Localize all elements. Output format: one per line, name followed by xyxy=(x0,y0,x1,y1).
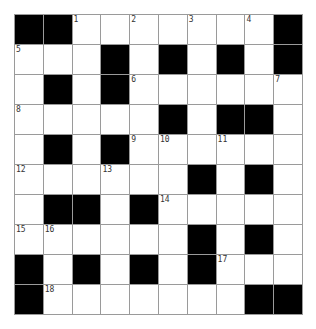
block-cell xyxy=(159,45,187,74)
answer-cell[interactable] xyxy=(159,75,187,104)
answer-cell[interactable] xyxy=(159,165,187,194)
block-cell xyxy=(44,195,72,224)
answer-cell[interactable] xyxy=(245,195,273,224)
answer-cell[interactable] xyxy=(274,195,302,224)
answer-cell[interactable] xyxy=(73,285,101,314)
answer-cell[interactable] xyxy=(73,45,101,74)
answer-cell[interactable] xyxy=(274,165,302,194)
answer-cell[interactable] xyxy=(217,225,245,254)
block-cell xyxy=(188,225,216,254)
clue-number: 2 xyxy=(131,16,136,24)
answer-cell[interactable] xyxy=(217,165,245,194)
answer-cell[interactable] xyxy=(130,165,158,194)
answer-cell[interactable]: 10 xyxy=(159,135,187,164)
answer-cell[interactable] xyxy=(274,225,302,254)
clue-number: 13 xyxy=(102,166,112,174)
answer-cell[interactable]: 12 xyxy=(15,165,43,194)
answer-cell[interactable] xyxy=(15,135,43,164)
answer-cell[interactable]: 18 xyxy=(44,285,72,314)
block-cell xyxy=(15,285,43,314)
block-cell xyxy=(130,255,158,284)
clue-number: 18 xyxy=(45,286,55,294)
answer-cell[interactable]: 8 xyxy=(15,105,43,134)
answer-cell[interactable]: 7 xyxy=(274,75,302,104)
answer-cell[interactable] xyxy=(130,105,158,134)
answer-cell[interactable] xyxy=(15,75,43,104)
answer-cell[interactable]: 13 xyxy=(101,165,129,194)
block-cell xyxy=(274,285,302,314)
answer-cell[interactable]: 16 xyxy=(44,225,72,254)
answer-cell[interactable] xyxy=(217,75,245,104)
answer-cell[interactable] xyxy=(44,165,72,194)
answer-cell[interactable] xyxy=(44,105,72,134)
answer-cell[interactable] xyxy=(44,255,72,284)
answer-cell[interactable] xyxy=(188,135,216,164)
block-cell xyxy=(73,195,101,224)
answer-cell[interactable]: 1 xyxy=(73,15,101,44)
answer-cell[interactable] xyxy=(274,105,302,134)
answer-cell[interactable] xyxy=(44,45,72,74)
answer-cell[interactable]: 5 xyxy=(15,45,43,74)
block-cell xyxy=(188,165,216,194)
answer-cell[interactable] xyxy=(245,45,273,74)
block-cell xyxy=(245,165,273,194)
answer-cell[interactable] xyxy=(130,285,158,314)
answer-cell[interactable] xyxy=(130,225,158,254)
clue-number: 5 xyxy=(16,46,21,54)
answer-cell[interactable] xyxy=(188,285,216,314)
answer-cell[interactable] xyxy=(159,255,187,284)
answer-cell[interactable] xyxy=(217,285,245,314)
block-cell xyxy=(101,45,129,74)
answer-cell[interactable]: 2 xyxy=(130,15,158,44)
answer-cell[interactable]: 17 xyxy=(217,255,245,284)
answer-cell[interactable] xyxy=(101,255,129,284)
answer-cell[interactable] xyxy=(73,105,101,134)
block-cell xyxy=(217,45,245,74)
clue-number: 16 xyxy=(45,226,55,234)
block-cell xyxy=(101,75,129,104)
answer-cell[interactable] xyxy=(101,195,129,224)
answer-cell[interactable] xyxy=(188,195,216,224)
answer-cell[interactable] xyxy=(130,45,158,74)
block-cell xyxy=(274,15,302,44)
clue-number: 15 xyxy=(16,226,26,234)
clue-number: 17 xyxy=(218,256,228,264)
answer-cell[interactable] xyxy=(274,255,302,284)
answer-cell[interactable] xyxy=(73,135,101,164)
clue-number: 9 xyxy=(131,136,136,144)
answer-cell[interactable]: 3 xyxy=(188,15,216,44)
answer-cell[interactable] xyxy=(159,225,187,254)
answer-cell[interactable] xyxy=(101,15,129,44)
answer-cell[interactable] xyxy=(101,105,129,134)
answer-cell[interactable] xyxy=(101,285,129,314)
answer-cell[interactable] xyxy=(188,75,216,104)
block-cell xyxy=(188,255,216,284)
answer-cell[interactable] xyxy=(245,135,273,164)
block-cell xyxy=(44,15,72,44)
answer-cell[interactable]: 14 xyxy=(159,195,187,224)
answer-cell[interactable] xyxy=(188,105,216,134)
answer-cell[interactable]: 15 xyxy=(15,225,43,254)
answer-cell[interactable]: 6 xyxy=(130,75,158,104)
answer-cell[interactable] xyxy=(245,75,273,104)
answer-cell[interactable] xyxy=(274,135,302,164)
block-cell xyxy=(245,105,273,134)
block-cell xyxy=(15,255,43,284)
answer-cell[interactable] xyxy=(73,225,101,254)
answer-cell[interactable]: 11 xyxy=(217,135,245,164)
answer-cell[interactable] xyxy=(73,75,101,104)
answer-cell[interactable] xyxy=(159,15,187,44)
answer-cell[interactable] xyxy=(188,45,216,74)
answer-cell[interactable] xyxy=(217,195,245,224)
answer-cell[interactable] xyxy=(15,195,43,224)
clue-number: 11 xyxy=(218,136,228,144)
answer-cell[interactable]: 9 xyxy=(130,135,158,164)
clue-number: 14 xyxy=(160,196,170,204)
answer-cell[interactable] xyxy=(73,165,101,194)
block-cell xyxy=(44,75,72,104)
answer-cell[interactable] xyxy=(101,225,129,254)
answer-cell[interactable] xyxy=(159,285,187,314)
answer-cell[interactable] xyxy=(245,255,273,284)
answer-cell[interactable]: 4 xyxy=(245,15,273,44)
answer-cell[interactable] xyxy=(217,15,245,44)
